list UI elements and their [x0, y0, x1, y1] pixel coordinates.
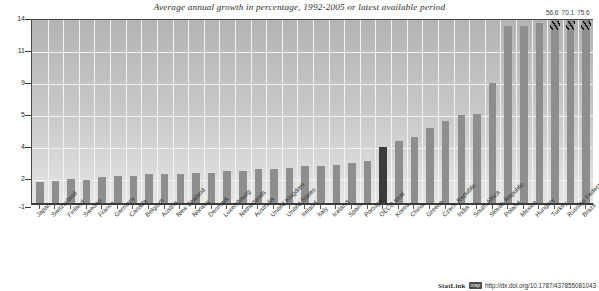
chart-figure: Average annual growth in percentage, 199…: [0, 0, 599, 291]
bar: [177, 174, 185, 204]
vertical-gridline: [454, 20, 455, 204]
x-tick-mark: [132, 204, 133, 209]
vertical-gridline: [375, 20, 376, 204]
bar: [536, 23, 544, 204]
vertical-gridline: [219, 20, 220, 204]
x-tick-mark: [585, 204, 586, 209]
bar: [114, 176, 122, 204]
vertical-gridline: [500, 20, 501, 204]
vertical-gridline: [141, 20, 142, 204]
vertical-gridline: [344, 20, 345, 204]
bar: [442, 121, 450, 204]
x-tick-mark: [195, 204, 196, 209]
vertical-gridline: [313, 20, 314, 204]
x-tick-mark: [54, 204, 55, 209]
x-tick-mark: [304, 204, 305, 209]
chart-title: Average annual growth in percentage, 199…: [0, 2, 599, 12]
vertical-gridline: [469, 20, 470, 204]
bar: [411, 137, 419, 204]
statlink-label: StatLink: [438, 282, 466, 290]
bar: [520, 26, 528, 204]
bar: [379, 147, 387, 204]
vertical-gridline: [563, 20, 564, 204]
bar: [426, 128, 434, 204]
x-tick-mark: [117, 204, 118, 209]
x-tick-mark: [554, 204, 555, 209]
statlink-url[interactable]: http://dx.doi.org/10.1787/437855081043: [485, 282, 596, 289]
bar: [582, 19, 590, 204]
x-tick-mark: [413, 204, 414, 209]
x-tick-mark: [148, 204, 149, 209]
bar: [364, 161, 372, 204]
x-tick-mark: [476, 204, 477, 209]
overflow-value-label: 56.6: [546, 9, 558, 16]
x-tick-mark: [39, 204, 40, 209]
x-tick-mark: [257, 204, 258, 209]
bar: [52, 181, 60, 204]
vertical-gridline: [547, 20, 548, 204]
x-tick-mark: [86, 204, 87, 209]
vertical-gridline: [235, 20, 236, 204]
statlink-badge-icon: msp: [469, 282, 483, 289]
vertical-gridline: [204, 20, 205, 204]
x-tick-mark: [351, 204, 352, 209]
x-tick-mark: [226, 204, 227, 209]
vertical-gridline: [391, 20, 392, 204]
x-tick-mark: [382, 204, 383, 209]
vertical-gridline: [94, 20, 95, 204]
vertical-gridline: [79, 20, 80, 204]
bar: [473, 114, 481, 204]
x-axis-category-labels: JapanSwitzerlandFinlandSwedenFranceGerma…: [0, 206, 599, 282]
x-tick-mark: [179, 204, 180, 209]
x-tick-mark: [367, 204, 368, 209]
vertical-gridline: [251, 20, 252, 204]
bar: [317, 166, 325, 204]
vertical-gridline: [63, 20, 64, 204]
vertical-gridline: [578, 20, 579, 204]
x-tick-mark: [507, 204, 508, 209]
vertical-gridline: [297, 20, 298, 204]
overflow-value-labels: 56.670.175.6: [540, 9, 599, 19]
x-tick-mark: [398, 204, 399, 209]
bar: [36, 182, 44, 204]
x-tick-mark: [445, 204, 446, 209]
x-tick-label: Italy: [315, 205, 328, 218]
vertical-gridline: [266, 20, 267, 204]
y-axis: 14119542-1: [0, 0, 31, 220]
overflow-value-label: 75.6: [577, 9, 589, 16]
bar: [551, 19, 559, 204]
bar: [567, 19, 575, 204]
y-tick-label: 14: [17, 15, 25, 22]
vertical-gridline: [48, 20, 49, 204]
x-tick-mark: [320, 204, 321, 209]
vertical-gridline: [438, 20, 439, 204]
vertical-gridline: [516, 20, 517, 204]
vertical-gridline: [485, 20, 486, 204]
y-tick-label: 11: [18, 47, 25, 54]
x-tick-mark: [164, 204, 165, 209]
x-tick-mark: [570, 204, 571, 209]
x-tick-mark: [460, 204, 461, 209]
plot-area: [31, 19, 593, 204]
vertical-gridline: [110, 20, 111, 204]
vertical-gridline: [157, 20, 158, 204]
x-tick-mark: [70, 204, 71, 209]
statlink-footer[interactable]: StatLink msp http://dx.doi.org/10.1787/4…: [438, 280, 596, 291]
bar: [83, 180, 91, 204]
vertical-gridline: [532, 20, 533, 204]
x-tick-mark: [211, 204, 212, 209]
bar: [504, 26, 512, 204]
vertical-gridline: [407, 20, 408, 204]
x-tick-mark: [492, 204, 493, 209]
x-tick-mark: [242, 204, 243, 209]
vertical-gridline: [329, 20, 330, 204]
vertical-gridline: [282, 20, 283, 204]
overflow-value-label: 70.1: [562, 9, 574, 16]
x-tick-mark: [289, 204, 290, 209]
x-tick-mark: [273, 204, 274, 209]
x-tick-mark: [101, 204, 102, 209]
x-tick-mark: [523, 204, 524, 209]
vertical-gridline: [188, 20, 189, 204]
bar: [333, 165, 341, 204]
vertical-gridline: [360, 20, 361, 204]
